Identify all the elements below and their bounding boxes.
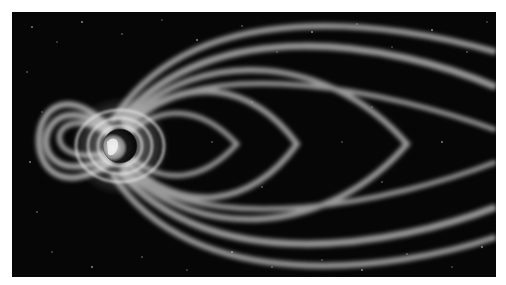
earth-globe [103, 129, 137, 163]
magnetosphere-svg [12, 12, 496, 277]
magnetosphere-illustration [12, 12, 496, 277]
